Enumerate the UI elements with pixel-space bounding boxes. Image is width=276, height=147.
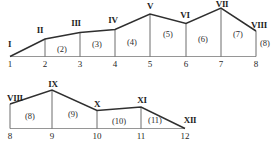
lower-tick-12: 12 — [181, 132, 190, 141]
lower-tick-11: 11 — [137, 132, 146, 141]
upper-tick-2: 2 — [43, 60, 48, 69]
upper-vertex-label-7: VII — [216, 0, 229, 9]
upper-segment-label-4: (4) — [127, 38, 137, 47]
diagram-canvas — [0, 0, 276, 147]
upper-vertex-label-8: VIII — [251, 21, 267, 30]
lower-vertex-label-9: IX — [48, 80, 57, 89]
upper-vertex-label-1: I — [8, 40, 11, 49]
lower-tick-9: 9 — [50, 132, 55, 141]
upper-segment-label-3: (3) — [92, 40, 102, 49]
upper-tick-6: 6 — [184, 60, 189, 69]
upper-tick-7: 7 — [219, 60, 224, 69]
lower-segment-label-9: (9) — [68, 110, 78, 119]
lower-vertex-label-12: XII — [184, 116, 197, 125]
upper-segment-label-6: (6) — [198, 35, 208, 44]
upper-vertex-label-6: VI — [180, 11, 189, 20]
upper-profile-polyline — [10, 8, 256, 57]
upper-tick-8: 8 — [254, 60, 259, 69]
upper-segment-label-2: (2) — [57, 45, 67, 54]
lower-segment-label-11: (11) — [148, 116, 162, 125]
upper-segment-label-8: (8) — [260, 39, 270, 48]
upper-tick-3: 3 — [78, 60, 83, 69]
upper-vertex-label-4: IV — [108, 16, 117, 25]
lower-vertex-label-10: X — [94, 100, 100, 109]
lower-tick-10: 10 — [93, 132, 102, 141]
lower-segment-label-10: (10) — [112, 117, 126, 126]
lower-vertex-label-11: XI — [137, 96, 146, 105]
lower-vertex-label-8: VIII — [7, 94, 23, 103]
upper-segment-label-7: (7) — [233, 30, 243, 39]
upper-tick-5: 5 — [148, 60, 153, 69]
lower-tick-8: 8 — [8, 132, 13, 141]
lower-segment-label-8: (8) — [25, 112, 35, 121]
upper-tick-4: 4 — [113, 60, 118, 69]
upper-tick-1: 1 — [8, 60, 13, 69]
diagram-root: I II III IV V VI VII VIII (2) (3) (4) (5… — [0, 0, 276, 147]
upper-vertex-label-3: III — [71, 19, 81, 28]
upper-segment-label-5: (5) — [163, 30, 173, 39]
upper-vertex-label-2: II — [37, 26, 43, 35]
upper-vertex-label-5: V — [147, 2, 153, 11]
